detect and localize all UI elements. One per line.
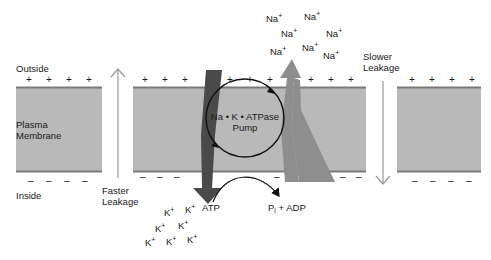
svg-text:+: + xyxy=(46,74,52,85)
svg-text:–: – xyxy=(174,171,180,182)
svg-text:+: + xyxy=(348,74,354,85)
products-label: Pi + ADP xyxy=(268,202,306,214)
svg-text:+: + xyxy=(162,74,168,85)
svg-text:Na+: Na+ xyxy=(270,45,286,57)
svg-text:–: – xyxy=(82,175,88,186)
svg-text:+: + xyxy=(409,74,415,85)
faster-leakage-label-line1: Faster xyxy=(102,185,129,196)
svg-text:–: – xyxy=(448,175,454,186)
svg-text:+: + xyxy=(66,74,72,85)
svg-text:–: – xyxy=(412,175,418,186)
slower-leakage-label-line1: Slower xyxy=(363,51,392,62)
svg-text:K+: K+ xyxy=(164,206,174,218)
svg-text:–: – xyxy=(157,171,163,182)
svg-text:+: + xyxy=(182,74,188,85)
svg-text:+: + xyxy=(449,74,455,85)
svg-text:+: + xyxy=(86,74,92,85)
svg-text:Na+: Na+ xyxy=(281,27,297,39)
svg-text:+: + xyxy=(267,74,273,85)
svg-text:–: – xyxy=(430,175,436,186)
faster-leakage-arrow-icon xyxy=(111,69,125,178)
svg-text:–: – xyxy=(466,175,472,186)
svg-text:+: + xyxy=(469,74,475,85)
svg-text:+: + xyxy=(26,74,32,85)
svg-text:K+: K+ xyxy=(187,233,197,245)
svg-text:–: – xyxy=(64,175,70,186)
svg-text:K+: K+ xyxy=(185,203,195,215)
svg-text:–: – xyxy=(274,171,280,182)
negative-charges: – – – – – – – – – – – – – – – – – xyxy=(28,171,472,186)
svg-text:K+: K+ xyxy=(178,219,188,231)
sodium-potassium-pump-diagram: + + + + + + + + + + + + + + + + + – – – … xyxy=(0,0,491,260)
svg-text:–: – xyxy=(28,175,34,186)
svg-text:–: – xyxy=(356,171,362,182)
svg-text:Na+: Na+ xyxy=(302,41,318,53)
atp-hydrolysis-arrow-icon xyxy=(213,177,279,202)
outside-label: Outside xyxy=(16,63,49,74)
sodium-ions: Na+ Na+ Na+ Na+ Na+ Na+ Na+ xyxy=(266,10,342,61)
svg-text:K+: K+ xyxy=(145,236,155,248)
svg-text:+: + xyxy=(308,74,314,85)
svg-text:+: + xyxy=(328,74,334,85)
svg-text:–: – xyxy=(340,171,346,182)
slower-leakage-label-line2: Leakage xyxy=(363,62,399,73)
potassium-ions: K+ K+ K+ K+ K+ K+ K+ xyxy=(145,203,197,248)
svg-text:+: + xyxy=(429,74,435,85)
svg-text:Na+: Na+ xyxy=(266,12,282,24)
inside-label: Inside xyxy=(16,190,41,201)
svg-text:Na+: Na+ xyxy=(304,10,320,22)
pump-label-line2: Pump xyxy=(233,122,258,133)
plasma-membrane-label-line1: Plasma xyxy=(16,119,48,130)
slower-leakage-arrow-icon xyxy=(376,81,390,184)
svg-text:–: – xyxy=(46,175,52,186)
faster-leakage-label-line2: Leakage xyxy=(102,196,138,207)
pump-label-line1: Na • K • ATPase xyxy=(211,111,279,122)
svg-text:+: + xyxy=(142,74,148,85)
atp-label: ATP xyxy=(202,202,220,213)
membrane-right xyxy=(397,87,481,172)
svg-text:K+: K+ xyxy=(166,235,176,247)
svg-text:Na+: Na+ xyxy=(326,27,342,39)
svg-text:–: – xyxy=(140,171,146,182)
svg-text:K+: K+ xyxy=(155,222,165,234)
plasma-membrane-label-line2: Membrane xyxy=(16,130,61,141)
svg-text:Na+: Na+ xyxy=(323,49,339,61)
svg-text:Pi + ADP: Pi + ADP xyxy=(268,202,306,214)
